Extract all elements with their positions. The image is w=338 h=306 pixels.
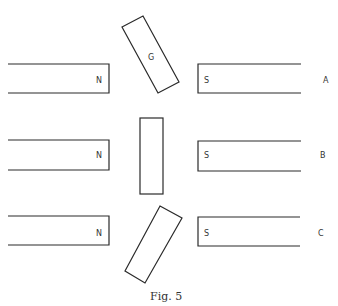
left-magnet-a [8, 64, 109, 93]
right-magnet-c-pole: S [204, 229, 209, 238]
left-magnet-b [8, 140, 109, 170]
left-magnet-b-pole: N [96, 151, 102, 160]
row-c: N S C [8, 206, 324, 283]
right-magnet-b [198, 141, 301, 171]
row-b: N S B [8, 118, 326, 194]
left-magnet-c [8, 216, 109, 245]
left-magnet-c-pole: N [96, 229, 102, 238]
row-a: N G S A [8, 16, 329, 93]
magnet-coil-diagram: N G S A N S B N S C Fig. 5 [0, 0, 338, 306]
right-magnet-a-pole: S [204, 76, 209, 85]
right-magnet-c [198, 217, 300, 246]
row-c-label: C [318, 229, 324, 238]
left-magnet-a-pole: N [96, 76, 102, 85]
coil-c [125, 206, 182, 283]
coil-b [140, 118, 163, 194]
right-magnet-b-pole: S [204, 151, 209, 160]
right-magnet-a [198, 64, 301, 93]
row-a-label: A [323, 76, 329, 85]
row-b-label: B [320, 151, 326, 160]
figure-caption: Fig. 5 [150, 290, 182, 303]
coil-a-label: G [148, 53, 154, 62]
